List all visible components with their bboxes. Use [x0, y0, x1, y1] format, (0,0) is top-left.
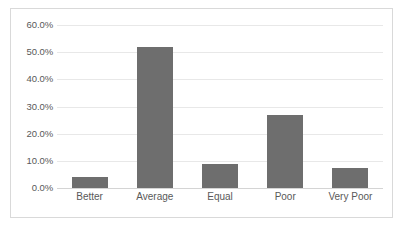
plot-area [57, 25, 383, 188]
y-axis-tick-label: 30.0% [9, 102, 53, 112]
y-axis-tick-label: 0.0% [9, 183, 53, 193]
y-axis-tick-label: 20.0% [9, 129, 53, 139]
x-axis: BetterAverageEqualPoorVery Poor [57, 192, 383, 212]
bar[interactable] [72, 177, 108, 188]
bar-slot [318, 25, 383, 188]
bar[interactable] [202, 164, 238, 188]
y-axis-tick-label: 10.0% [9, 156, 53, 166]
y-axis-tick-label: 60.0% [9, 20, 53, 30]
gridline [57, 188, 383, 189]
bar[interactable] [332, 168, 368, 188]
y-axis-tick-label: 50.0% [9, 47, 53, 57]
y-axis-tick-label: 40.0% [9, 75, 53, 85]
bar[interactable] [267, 115, 303, 188]
x-axis-tick-label: Equal [207, 192, 233, 202]
chart-container: 0.0%10.0%20.0%30.0%40.0%50.0%60.0% Bette… [10, 8, 393, 218]
bar-series [57, 25, 383, 188]
bar-slot [57, 25, 122, 188]
bar-slot [253, 25, 318, 188]
x-axis-tick-label: Very Poor [328, 192, 372, 202]
y-axis: 0.0%10.0%20.0%30.0%40.0%50.0%60.0% [11, 25, 53, 188]
x-axis-tick-label: Average [136, 192, 173, 202]
bar-slot [122, 25, 187, 188]
x-axis-tick-label: Poor [275, 192, 296, 202]
x-axis-tick-label: Better [76, 192, 103, 202]
bar-slot [187, 25, 252, 188]
bar[interactable] [137, 47, 173, 188]
